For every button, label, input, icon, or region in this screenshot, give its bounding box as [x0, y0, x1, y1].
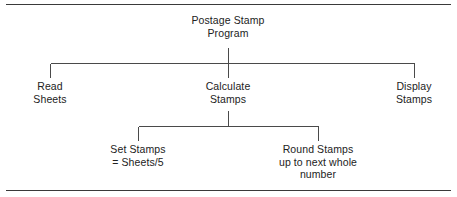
node-label-line: Set Stamps — [110, 143, 165, 156]
node-label-line: Postage Stamp — [191, 14, 264, 27]
node-label-line: Sheets — [33, 93, 66, 106]
node-read-sheets: Read Sheets — [33, 80, 66, 105]
node-label-line: number — [279, 168, 357, 181]
node-label-line: Stamps — [396, 93, 432, 106]
structure-chart-figure: Postage Stamp Program Read Sheets Calcul… — [0, 0, 457, 197]
node-label-line: Round Stamps — [279, 143, 357, 156]
node-round-stamps: Round Stamps up to next whole number — [279, 143, 357, 181]
node-label-line: Calculate — [206, 80, 251, 93]
node-calculate-stamps: Calculate Stamps — [206, 80, 251, 105]
node-label-line: Display — [396, 80, 432, 93]
node-label-line: Stamps — [206, 93, 251, 106]
node-label-line: Read — [33, 80, 66, 93]
node-label-line: Program — [191, 27, 264, 40]
node-set-stamps: Set Stamps = Sheets/5 — [110, 143, 165, 168]
node-label-line: = Sheets/5 — [110, 156, 165, 169]
node-label-line: up to next whole — [279, 156, 357, 169]
node-postage-stamp-program: Postage Stamp Program — [191, 14, 264, 39]
node-display-stamps: Display Stamps — [396, 80, 432, 105]
